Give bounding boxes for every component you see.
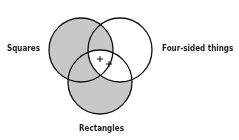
label-four-sided-things: Four-sided things <box>162 43 233 53</box>
venn-svg <box>0 0 239 140</box>
label-rectangles: Rectangles <box>79 123 124 133</box>
venn-diagram: Squares Four-sided things Rectangles <box>0 0 239 140</box>
label-squares: Squares <box>7 43 40 53</box>
